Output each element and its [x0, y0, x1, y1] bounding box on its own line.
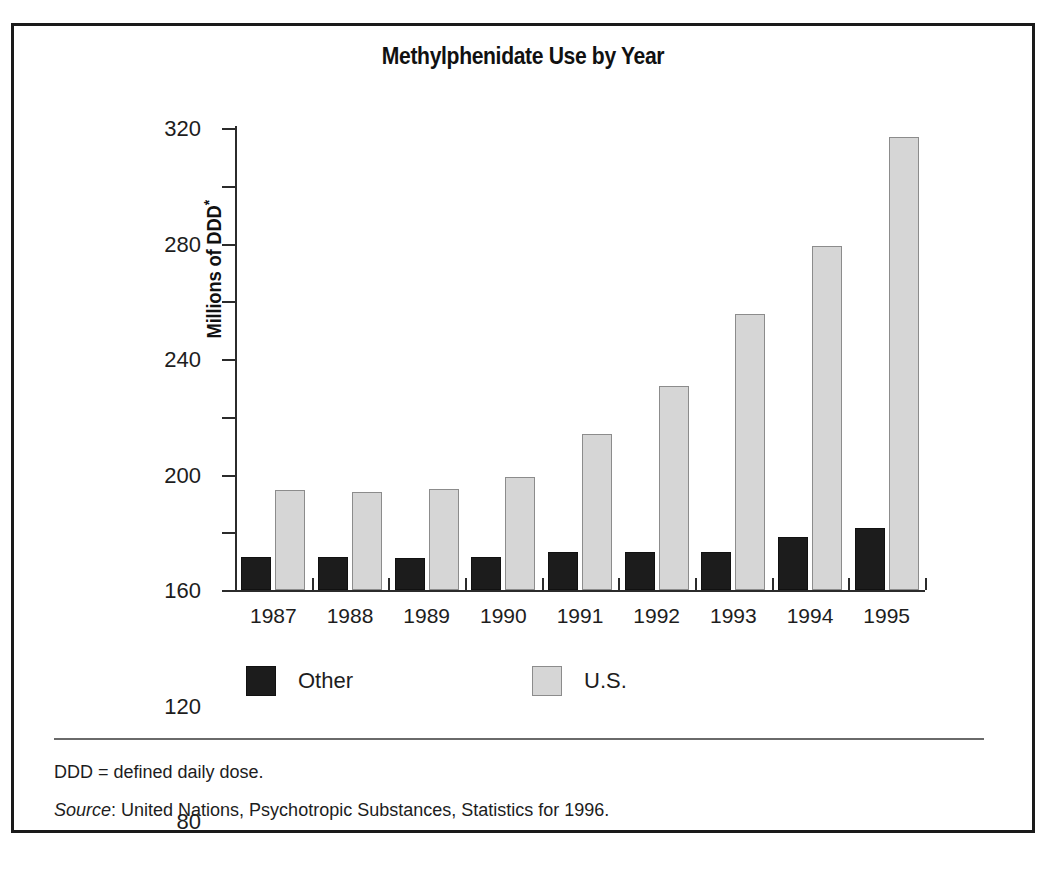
x-axis-tick [388, 578, 390, 590]
legend: OtherU.S. [246, 666, 766, 700]
y-axis-tick-label: 160 [164, 578, 201, 604]
bar-us-1991 [582, 434, 612, 590]
bar-other-1993 [701, 552, 731, 590]
bar-us-1995 [889, 137, 919, 590]
x-axis-line [235, 590, 925, 592]
y-axis-tick: 200 [222, 301, 235, 303]
bar-other-1994 [778, 537, 808, 590]
legend-entry-us[interactable]: U.S. [532, 666, 627, 696]
legend-label-us: U.S. [584, 668, 627, 694]
y-axis-title: Millions of DDD* [200, 168, 227, 370]
bar-us-1993 [735, 314, 765, 590]
x-axis-label-1990: 1990 [465, 604, 542, 628]
x-axis-tick [465, 578, 467, 590]
bar-other-1992 [625, 552, 655, 590]
y-axis-tick-label: 240 [164, 347, 201, 373]
bar-group [848, 128, 925, 590]
x-axis-tick [925, 578, 927, 590]
footnote-source-text: : United Nations, Psychotropic Substance… [111, 800, 609, 820]
bar-group [618, 128, 695, 590]
footnote-ddd: DDD = defined daily dose. [54, 762, 264, 783]
bar-other-1988 [318, 557, 348, 590]
x-axis-label-1992: 1992 [618, 604, 695, 628]
y-axis-tick: 120 [222, 417, 235, 419]
bar-other-1991 [548, 552, 578, 590]
y-axis-tick: 80 [222, 475, 235, 477]
bar-us-1992 [659, 386, 689, 590]
bar-us-1987 [275, 490, 305, 590]
x-axis-tick [695, 578, 697, 590]
footnote-divider [54, 738, 984, 740]
x-axis-tick [772, 578, 774, 590]
bar-us-1988 [352, 492, 382, 590]
bar-group [388, 128, 465, 590]
bar-group [542, 128, 619, 590]
bar-other-1990 [471, 557, 501, 590]
y-axis-tick-label: 280 [164, 231, 201, 257]
x-axis-tick [312, 578, 314, 590]
legend-swatch-other [246, 666, 276, 696]
x-axis-label-1995: 1995 [848, 604, 925, 628]
x-axis-tick [618, 578, 620, 590]
x-axis-label-1993: 1993 [695, 604, 772, 628]
plot-area: Millions of DDD* 04080120160200240280320… [235, 126, 935, 594]
x-axis-label-1989: 1989 [388, 604, 465, 628]
bar-group [772, 128, 849, 590]
y-axis-tick-label: 320 [164, 116, 201, 142]
y-axis-tick-label: 200 [164, 462, 201, 488]
y-axis-tick: 240 [222, 244, 235, 246]
bar-other-1989 [395, 558, 425, 590]
x-axis-tick [542, 578, 544, 590]
legend-label-other: Other [298, 668, 353, 694]
y-axis-tick: 0 [222, 590, 235, 592]
x-axis-label-1994: 1994 [772, 604, 849, 628]
y-axis-tick: 160 [222, 359, 235, 361]
footnote-source: Source: United Nations, Psychotropic Sub… [54, 800, 609, 821]
bar-us-1989 [429, 489, 459, 590]
legend-swatch-us [532, 666, 562, 696]
bar-other-1987 [241, 557, 271, 590]
bar-other-1995 [855, 528, 885, 590]
bar-us-1990 [505, 477, 535, 590]
y-axis-tick: 40 [222, 532, 235, 534]
y-axis-tick: 280 [222, 186, 235, 188]
y-axis-tick-label: 120 [164, 693, 201, 719]
x-axis-label-1987: 1987 [235, 604, 312, 628]
x-axis-label-1991: 1991 [542, 604, 619, 628]
x-axis-tick [848, 578, 850, 590]
bar-us-1994 [812, 246, 842, 590]
bar-group [695, 128, 772, 590]
legend-entry-other[interactable]: Other [246, 666, 353, 696]
bar-group [312, 128, 389, 590]
x-axis-label-1988: 1988 [312, 604, 389, 628]
chart-title: Methylphenidate Use by Year [75, 42, 971, 70]
bar-group [235, 128, 312, 590]
footnote-source-word: Source [54, 800, 111, 820]
bar-group [465, 128, 542, 590]
y-axis-tick: 320 [222, 128, 235, 130]
figure-frame: Methylphenidate Use by Year Millions of … [11, 23, 1035, 833]
x-axis-tick [235, 578, 237, 590]
